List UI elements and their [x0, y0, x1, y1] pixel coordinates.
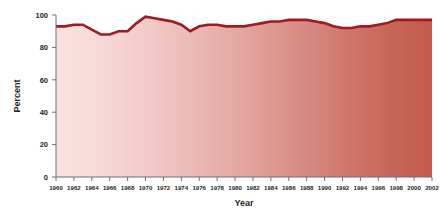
x-tick-label: 1984: [264, 184, 278, 191]
x-tick-label: 1992: [336, 184, 350, 191]
x-tick-label: 1968: [121, 184, 135, 191]
area-fill: [56, 17, 432, 177]
y-axis-title: Percent: [12, 79, 22, 112]
y-tick-label: 0: [44, 173, 48, 182]
y-tick-label: 60: [40, 76, 48, 85]
x-tick-label: 1966: [103, 184, 117, 191]
x-axis-tick-labels: 1960196219641966196819701972197419761978…: [49, 184, 439, 191]
x-tick-label: 1980: [228, 184, 242, 191]
x-tick-label: 1960: [49, 184, 63, 191]
x-tick-label: 1982: [246, 184, 260, 191]
y-axis-ticks: [52, 15, 56, 177]
x-tick-label: 1974: [175, 184, 189, 191]
y-tick-label: 100: [35, 11, 48, 20]
y-tick-label: 20: [40, 140, 48, 149]
x-tick-label: 1978: [210, 184, 224, 191]
x-tick-label: 1996: [372, 184, 386, 191]
x-tick-label: 1970: [139, 184, 153, 191]
x-tick-label: 1964: [85, 184, 99, 191]
x-axis-ticks: [56, 177, 432, 181]
y-tick-label: 80: [40, 43, 48, 52]
x-tick-label: 1994: [354, 184, 368, 191]
y-tick-label: 40: [40, 108, 48, 117]
x-tick-label: 1962: [67, 184, 81, 191]
x-tick-label: 1998: [389, 184, 403, 191]
x-axis-title: Year: [234, 198, 254, 208]
x-tick-label: 1990: [318, 184, 332, 191]
area-chart: 020406080100 196019621964196619681970197…: [0, 0, 442, 213]
x-tick-label: 1972: [157, 184, 171, 191]
x-tick-label: 1986: [282, 184, 296, 191]
x-tick-label: 2000: [407, 184, 421, 191]
x-tick-label: 1976: [192, 184, 206, 191]
x-tick-label: 1988: [300, 184, 314, 191]
x-tick-label: 2002: [425, 184, 439, 191]
chart-container: 020406080100 196019621964196619681970197…: [0, 0, 442, 213]
y-axis-tick-labels: 020406080100: [35, 11, 48, 182]
